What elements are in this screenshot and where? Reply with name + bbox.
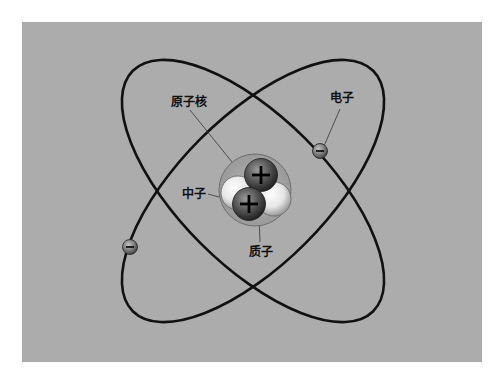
electron-label: 电子	[330, 91, 354, 105]
electron-leader-line	[324, 109, 340, 146]
proton-top	[245, 159, 278, 192]
nucleus-leader-line	[190, 110, 232, 162]
electron-right	[313, 144, 328, 159]
nucleus-label: 原子核	[171, 95, 207, 109]
atom-illustration	[0, 0, 503, 382]
proton-bottom	[233, 188, 266, 221]
neutron-label: 中子	[182, 187, 206, 201]
nucleus	[219, 154, 291, 226]
electron-left	[123, 240, 138, 255]
proton-label: 质子	[249, 245, 273, 259]
atom-diagram: 原子核 电子 中子 质子	[0, 0, 503, 382]
